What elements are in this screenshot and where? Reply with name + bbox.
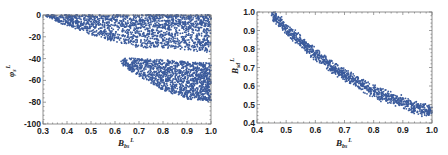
x-tick-label: 0.9: [397, 125, 409, 135]
y-tick-label: 1.0: [243, 7, 255, 17]
x-axis-label: BbsL: [335, 137, 352, 149]
chart-left-svg: 0.30.40.50.60.70.80.91.00-20-40-60-80-10…: [0, 0, 224, 155]
y-tick-label: 0.9: [243, 26, 255, 36]
x-tick-label: 0.7: [339, 125, 351, 135]
y-tick-label: -100: [24, 119, 41, 129]
x-tick-label: 0.8: [157, 126, 169, 136]
x-tick-label: 0.8: [368, 125, 380, 135]
y-axis-label: φsL: [5, 64, 17, 77]
x-tick-label: 1.0: [426, 125, 438, 135]
scatter-plot-bsd-vs-bbs: 0.40.50.60.70.80.91.01.00.90.80.70.60.50…: [224, 0, 448, 155]
x-tick-label: 0.5: [280, 125, 292, 135]
scatter-points: [45, 14, 212, 102]
y-tick-label: -60: [29, 75, 42, 85]
y-tick-label: -40: [29, 54, 42, 64]
x-tick-label: 0.7: [133, 126, 145, 136]
y-tick-label: -20: [29, 32, 42, 42]
y-tick-label: 0.8: [243, 44, 255, 54]
scatter-points: [271, 11, 433, 117]
y-tick-label: 0.5: [243, 100, 255, 110]
chart-right-svg: 0.40.50.60.70.80.91.01.00.90.80.70.60.50…: [224, 0, 448, 155]
x-tick-label: 0.4: [61, 126, 73, 136]
x-tick-label: 0.6: [109, 126, 121, 136]
x-tick-label: 1.0: [205, 126, 217, 136]
x-tick-label: 0.5: [85, 126, 97, 136]
scatter-plot-phi-vs-bbs: 0.30.40.50.60.70.80.91.00-20-40-60-80-10…: [0, 0, 224, 155]
y-tick-label: 0.6: [243, 81, 255, 91]
x-tick-label: 0.9: [181, 126, 193, 136]
y-tick-label: 0.4: [243, 118, 255, 128]
y-tick-label: 0.7: [243, 63, 255, 73]
y-axis-label: BsdL: [229, 58, 241, 75]
x-tick-label: 0.6: [309, 125, 321, 135]
y-tick-label: 0: [36, 10, 41, 20]
x-axis-label: BbsL: [117, 137, 134, 149]
y-tick-label: -80: [29, 97, 42, 107]
